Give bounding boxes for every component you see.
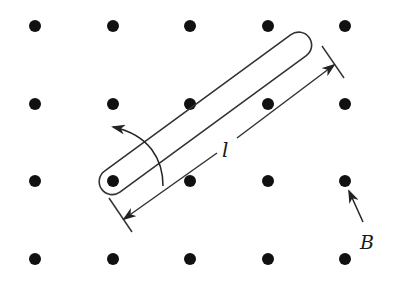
field-dot	[184, 253, 196, 265]
rotating-rod-diagram: l B	[0, 0, 397, 281]
field-dot	[107, 175, 119, 187]
field-dot	[262, 253, 274, 265]
rod	[94, 27, 317, 200]
field-dot	[107, 98, 119, 110]
length-label: l	[222, 138, 228, 162]
magnetic-field-label: B	[360, 231, 374, 253]
field-dot	[107, 20, 119, 32]
dimension-arrow-lower	[124, 153, 217, 219]
field-dot	[29, 98, 41, 110]
field-dot	[339, 20, 351, 32]
field-dot	[339, 175, 351, 187]
dimension-arrow-upper	[237, 65, 334, 138]
magnetic-field-dots	[29, 20, 351, 265]
field-dot	[107, 253, 119, 265]
field-pointer-arrow-icon	[349, 191, 363, 222]
field-dot	[339, 98, 351, 110]
field-dot	[29, 20, 41, 32]
rotation-arrow-icon	[113, 127, 163, 186]
field-dot	[262, 175, 274, 187]
field-dot	[339, 253, 351, 265]
field-dot	[29, 253, 41, 265]
diagram-canvas	[0, 0, 397, 281]
field-dot	[184, 20, 196, 32]
field-dot	[262, 98, 274, 110]
field-dot	[29, 175, 41, 187]
dimension-end-bar-right	[322, 46, 344, 78]
field-dot	[262, 20, 274, 32]
field-dot	[184, 175, 196, 187]
